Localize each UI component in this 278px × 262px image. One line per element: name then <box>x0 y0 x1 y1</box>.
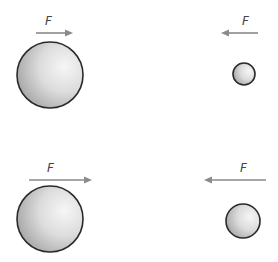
force-label: F <box>242 14 250 28</box>
panel-bottom-left: F <box>17 161 92 252</box>
force-label: F <box>45 14 53 28</box>
large-sphere <box>17 186 83 252</box>
panel-top-left: F <box>17 14 83 108</box>
force-label: F <box>47 161 55 175</box>
force-label: F <box>240 161 248 175</box>
medium-sphere <box>226 204 260 238</box>
force-arrow-left <box>204 177 266 184</box>
force-arrow-left <box>221 30 258 37</box>
force-arrow-right <box>29 177 92 184</box>
large-sphere <box>17 42 83 108</box>
force-diagram: F F F F <box>0 0 278 262</box>
panel-top-right: F <box>221 14 258 85</box>
small-sphere <box>233 63 255 85</box>
panel-bottom-right: F <box>204 161 266 238</box>
force-arrow-right <box>36 30 73 37</box>
